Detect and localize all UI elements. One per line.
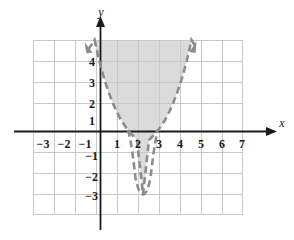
y-tick-labels-negative: −1 −2 −3 bbox=[85, 149, 98, 203]
x-tick-4: 4 bbox=[177, 137, 183, 151]
y-tick-4: 4 bbox=[89, 55, 95, 69]
y-tick--2: −2 bbox=[85, 170, 98, 184]
y-tick--3: −3 bbox=[85, 189, 98, 203]
x-tick-1: 1 bbox=[114, 137, 120, 151]
y-tick-1: 1 bbox=[89, 114, 95, 128]
x-tick-6: 6 bbox=[219, 137, 225, 151]
x-tick-7: 7 bbox=[239, 137, 245, 151]
x-axis-arrow bbox=[266, 127, 277, 136]
x-tick-3: 3 bbox=[156, 137, 162, 151]
x-tick--2: −2 bbox=[58, 137, 71, 151]
y-tick--1: −1 bbox=[85, 149, 98, 163]
y-tick-3: 3 bbox=[89, 76, 95, 90]
x-tick--3: −3 bbox=[37, 137, 50, 151]
x-axis-label: x bbox=[278, 116, 285, 130]
y-axis-label: y bbox=[97, 5, 104, 19]
x-tick-5: 5 bbox=[198, 137, 204, 151]
x-tick-2: 2 bbox=[135, 137, 141, 151]
y-tick-2: 2 bbox=[89, 97, 95, 111]
graph-figure: y x −3 −2 −1 1 2 3 4 5 6 7 4 3 2 1 −1 −2… bbox=[0, 0, 294, 240]
